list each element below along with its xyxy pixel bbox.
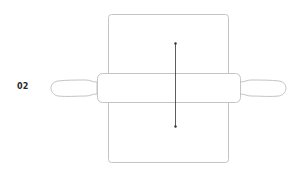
left-handle-icon xyxy=(51,80,97,96)
rolling-pin-barrel xyxy=(98,74,241,103)
right-handle-icon xyxy=(240,80,286,96)
rolling-pin-illustration xyxy=(0,0,300,173)
